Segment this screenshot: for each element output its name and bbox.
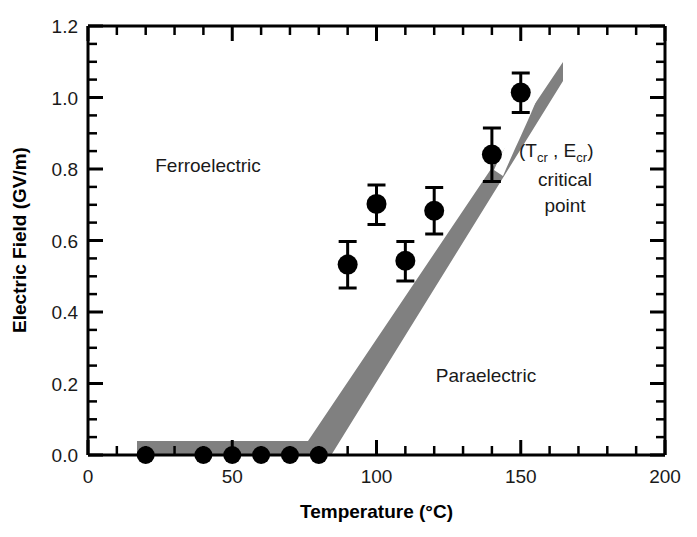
y-tick-label: 0.4 [52, 302, 79, 323]
y-tick-label: 0.8 [52, 159, 78, 180]
x-tick-label: 0 [83, 466, 94, 487]
chart-canvas: 0.0 0.2 0.4 0.6 0.8 1.0 1.2 0 50 100 150… [0, 0, 697, 537]
data-point [137, 446, 155, 464]
y-tick-label: 1.0 [52, 88, 78, 109]
critical-point-line2: critical [538, 169, 592, 190]
x-tick-label: 50 [222, 466, 243, 487]
critical-subscript-e: cr [576, 150, 588, 165]
y-tick-label: 0.6 [52, 231, 78, 252]
critical-open-paren: (T [519, 140, 537, 161]
data-point [252, 446, 270, 464]
phase-diagram-figure: 0.0 0.2 0.4 0.6 0.8 1.0 1.2 0 50 100 150… [0, 0, 697, 537]
critical-point-line3: point [544, 195, 586, 216]
x-axis-title: Temperature (°C) [300, 501, 453, 522]
data-point [223, 446, 241, 464]
ferroelectric-region-label: Ferroelectric [155, 155, 261, 176]
critical-subscript-t: cr [537, 150, 549, 165]
critical-close-paren: ) [587, 140, 593, 161]
x-tick-label: 150 [505, 466, 537, 487]
critical-comma: , E [548, 140, 577, 161]
data-point [310, 446, 328, 464]
y-tick-label: 0.0 [52, 445, 78, 466]
data-point [194, 446, 212, 464]
data-point [281, 446, 299, 464]
y-tick-label: 0.2 [52, 374, 78, 395]
x-tick-label: 100 [361, 466, 393, 487]
y-axis-title: Electric Field (GV/m) [9, 147, 30, 333]
x-tick-label: 200 [649, 466, 681, 487]
y-tick-label: 1.2 [52, 16, 78, 37]
paraelectric-region-label: Paraelectric [436, 365, 536, 386]
